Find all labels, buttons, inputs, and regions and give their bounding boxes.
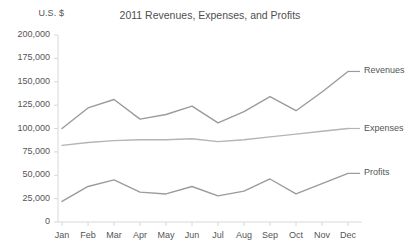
series-lines (62, 71, 360, 201)
y-tick-label: 50,000 (0, 169, 50, 179)
line-chart: U.S. $ 2011 Revenues, Expenses, and Prof… (0, 0, 411, 251)
series-line-revenues (62, 71, 348, 128)
series-label-expenses: Expenses (364, 123, 404, 133)
axis-lines (58, 35, 362, 222)
y-tick-label: 100,000 (0, 123, 50, 133)
axis-ticks (54, 35, 348, 226)
series-line-profits (62, 173, 348, 201)
series-label-revenues: Revenues (364, 65, 405, 75)
y-tick-label: 0 (0, 216, 50, 226)
series-label-profits: Profits (364, 167, 390, 177)
y-tick-label: 175,000 (0, 52, 50, 62)
x-tick-label: Dec (333, 230, 363, 240)
y-tick-label: 25,000 (0, 193, 50, 203)
y-tick-label: 75,000 (0, 146, 50, 156)
series-line-expenses (62, 129, 348, 146)
plot-area (0, 0, 411, 251)
y-tick-label: 200,000 (0, 29, 50, 39)
y-tick-label: 125,000 (0, 99, 50, 109)
y-tick-label: 150,000 (0, 76, 50, 86)
